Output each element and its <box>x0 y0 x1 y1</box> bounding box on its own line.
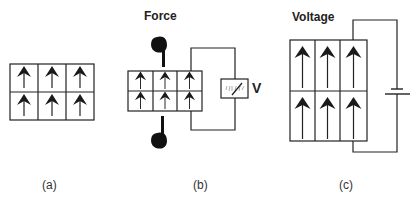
panel-c-caption: (c) <box>339 178 353 192</box>
panel-c-title: Voltage <box>292 10 334 24</box>
voltmeter-icon <box>221 79 248 98</box>
panel-a-caption: (a) <box>42 178 57 192</box>
panel-b-caption: (b) <box>193 178 208 192</box>
pointing-hand-down-icon <box>151 37 167 68</box>
voltmeter-label: V <box>252 80 261 96</box>
panel-b-circuit <box>128 37 248 149</box>
panel-b-title: Force <box>144 9 177 23</box>
battery-icon <box>385 89 410 94</box>
panel-c-circuit <box>290 20 410 152</box>
panel-a-grid <box>10 64 94 120</box>
pointing-hand-up-icon <box>151 116 167 149</box>
piezoelectric-diagram <box>0 0 417 204</box>
